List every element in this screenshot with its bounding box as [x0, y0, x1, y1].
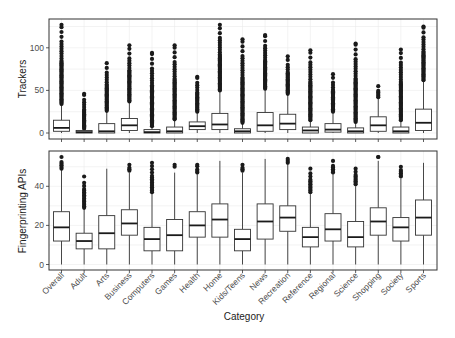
outlier-point	[399, 56, 403, 60]
outlier-point	[105, 66, 109, 70]
x-tick-label: Sports	[403, 270, 427, 294]
outlier-point	[421, 24, 425, 28]
outlier-point	[354, 47, 358, 51]
y-tick-label: 0	[39, 260, 44, 270]
y-tick-label: 20	[35, 220, 45, 230]
outlier-point	[195, 81, 199, 85]
outlier-point	[218, 36, 222, 40]
outlier-point	[195, 163, 199, 167]
outlier-point	[173, 55, 177, 59]
outlier-point	[331, 76, 335, 80]
outlier-point	[331, 164, 335, 168]
outlier-point	[82, 181, 86, 185]
outlier-point	[331, 159, 335, 163]
outlier-point	[59, 23, 63, 27]
x-tick-label: Adult	[68, 270, 89, 291]
outlier-point	[127, 56, 131, 60]
outlier-point	[354, 167, 358, 171]
outlier-point	[59, 160, 63, 164]
outlier-point	[59, 40, 63, 44]
outlier-point	[263, 33, 267, 37]
outlier-point	[399, 165, 403, 169]
x-tick-label: Society	[379, 270, 406, 297]
outlier-point	[240, 37, 244, 41]
outlier-point	[173, 163, 177, 167]
iqr-box	[325, 124, 341, 133]
outlier-point	[331, 81, 335, 85]
outlier-point	[127, 43, 131, 47]
outlier-point	[82, 174, 86, 178]
outlier-point	[173, 50, 177, 54]
outlier-point	[59, 35, 63, 39]
x-tick-label: Health	[177, 270, 202, 295]
iqr-box	[370, 117, 386, 131]
outlier-point	[218, 26, 222, 30]
iqr-box	[393, 218, 409, 241]
outlier-point	[308, 48, 312, 52]
outlier-point	[331, 72, 335, 76]
outlier-point	[150, 51, 154, 55]
outlier-point	[150, 161, 154, 165]
outlier-point	[127, 47, 131, 51]
fingerprinting-panel: 02040	[35, 151, 437, 273]
outlier-point	[286, 63, 290, 67]
outlier-point	[354, 57, 358, 61]
x-axis-category-labels: OverallAdultArtsBusinessComputersGamesHe…	[40, 270, 428, 307]
y-tick-label: 40	[35, 181, 45, 191]
iqr-box	[280, 114, 296, 129]
outlier-point	[240, 163, 244, 167]
outlier-point	[286, 54, 290, 58]
outlier-point	[150, 57, 154, 61]
iqr-box	[54, 120, 70, 131]
iqr-box	[280, 206, 296, 231]
boxplot-figure: 050100 02040 OverallAdultArtsBusinessCom…	[0, 0, 455, 338]
outlier-point	[399, 61, 403, 65]
trackers-panel: 050100	[30, 19, 437, 142]
outlier-point	[421, 35, 425, 39]
iqr-box	[416, 109, 432, 130]
outlier-point	[173, 60, 177, 64]
outlier-point	[195, 75, 199, 79]
outlier-point	[308, 171, 312, 175]
x-tick-label: Arts	[93, 270, 111, 288]
x-tick-label: Games	[153, 270, 179, 296]
iqr-box	[99, 216, 115, 249]
outlier-point	[59, 30, 63, 34]
outlier-point	[354, 41, 358, 45]
outlier-point	[150, 62, 154, 66]
y-tick-label: 0	[39, 128, 44, 138]
iqr-box	[189, 212, 205, 237]
outlier-point	[376, 84, 380, 88]
outlier-point	[263, 39, 267, 43]
outlier-point	[308, 55, 312, 59]
outlier-point	[308, 167, 312, 171]
iqr-box	[325, 214, 341, 241]
outlier-point	[105, 61, 109, 65]
iqr-box	[257, 113, 273, 132]
outlier-point	[399, 47, 403, 51]
outlier-point	[218, 31, 222, 35]
outlier-point	[240, 49, 244, 53]
outlier-point	[308, 60, 312, 64]
outlier-point	[127, 52, 131, 56]
outlier-point	[240, 54, 244, 58]
bottom-y-axis-title: Fingerprinting APIs	[17, 169, 28, 254]
iqr-box	[212, 204, 228, 237]
top-y-axis-title: Trackers	[17, 60, 28, 99]
iqr-box	[54, 212, 70, 241]
iqr-box	[212, 113, 228, 129]
outlier-point	[150, 66, 154, 70]
x-tick-label: Overall	[40, 270, 66, 296]
outlier-point	[263, 44, 267, 48]
outlier-point	[376, 155, 380, 159]
outlier-point	[218, 23, 222, 27]
outlier-point	[127, 163, 131, 167]
outlier-point	[286, 157, 290, 161]
outlier-point	[399, 51, 403, 55]
outlier-point	[105, 71, 109, 75]
y-tick-label: 50	[35, 85, 45, 95]
y-tick-label: 100	[30, 43, 44, 53]
outlier-point	[354, 52, 358, 56]
outlier-point	[376, 89, 380, 93]
x-axis-title: Category	[224, 311, 265, 322]
